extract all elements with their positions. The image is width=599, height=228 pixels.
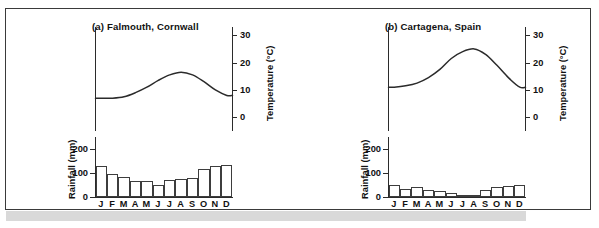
rainfall-bar: [434, 191, 445, 197]
rainfall-bar: [130, 181, 141, 197]
temperature-tick-label: 0: [240, 112, 245, 122]
rainfall-tick: [90, 149, 95, 150]
figure-frame: (a) Falmouth, Cornwall JFMAMJJASOND 0102…: [5, 8, 591, 210]
panel-a-month-axis: JFMAMJJASOND: [95, 199, 233, 213]
rainfall-bar: [457, 195, 468, 197]
month-label: A: [177, 199, 184, 209]
temperature-tick-label: 10: [533, 85, 543, 95]
rainfall-bar: [198, 169, 209, 197]
month-label: F: [109, 199, 115, 209]
month-label: J: [155, 199, 160, 209]
rainfall-bar: [210, 166, 221, 197]
panel-b-temperature-axis-title: Temperature (°C): [557, 46, 568, 121]
month-label: O: [493, 199, 500, 209]
temperature-tick: [525, 63, 530, 64]
month-label: A: [425, 199, 432, 209]
temperature-tick: [232, 117, 237, 118]
panel-b-rainfall-axis-title: Rainfall (mm): [359, 140, 370, 199]
rainfall-bar: [423, 190, 434, 197]
month-label: J: [460, 199, 465, 209]
panel-b-month-axis: JFMAMJJASOND: [388, 199, 526, 213]
temperature-tick-label: 30: [533, 30, 543, 40]
rainfall-bar: [411, 187, 422, 197]
temperature-tick-label: 10: [240, 85, 250, 95]
month-label: N: [212, 199, 219, 209]
rainfall-bar: [468, 195, 479, 197]
month-label: S: [482, 199, 488, 209]
month-label: A: [470, 199, 477, 209]
month-label: M: [143, 199, 151, 209]
panel-cartagena: (b) Cartagena, Spain JFMAMJJASOND 010203…: [299, 9, 592, 211]
month-label: J: [448, 199, 453, 209]
rainfall-tick: [90, 197, 95, 198]
rainfall-tick: [383, 173, 388, 174]
rainfall-tick: [90, 173, 95, 174]
rainfall-bar: [491, 187, 502, 197]
temperature-tick: [232, 63, 237, 64]
rainfall-bar: [153, 185, 164, 197]
month-label: F: [402, 199, 408, 209]
temperature-tick: [525, 117, 530, 118]
rainfall-bar: [164, 180, 175, 197]
rainfall-tick: [383, 149, 388, 150]
rainfall-bar: [107, 174, 118, 197]
rainfall-bar: [96, 166, 107, 197]
rainfall-bar: [187, 178, 198, 197]
temperature-tick-label: 20: [240, 58, 250, 68]
rainfall-bar: [514, 185, 525, 197]
temperature-tick-label: 30: [240, 30, 250, 40]
month-label: J: [391, 199, 396, 209]
rainfall-bar: [503, 186, 514, 197]
temperature-tick-label: 20: [533, 58, 543, 68]
panel-a-rainfall-bars: [96, 137, 233, 197]
month-label: M: [436, 199, 444, 209]
rainfall-bar: [400, 189, 411, 197]
rainfall-bar: [118, 177, 129, 197]
month-label: D: [516, 199, 523, 209]
month-label: A: [132, 199, 139, 209]
temperature-tick: [232, 35, 237, 36]
rainfall-bar: [221, 165, 232, 197]
month-label: M: [413, 199, 421, 209]
month-label: D: [223, 199, 230, 209]
rainfall-bar: [446, 193, 457, 197]
temperature-tick-label: 0: [533, 112, 538, 122]
temperature-tick: [525, 90, 530, 91]
temperature-tick: [525, 35, 530, 36]
rainfall-bar: [175, 179, 186, 197]
panel-a-rainfall-axis-title: Rainfall (mm): [66, 140, 77, 199]
panel-a-temperature-axis-title: Temperature (°C): [264, 46, 275, 121]
month-label: M: [120, 199, 128, 209]
month-label: S: [189, 199, 195, 209]
rainfall-tick: [383, 197, 388, 198]
month-label: O: [200, 199, 207, 209]
rainfall-bar: [480, 190, 491, 197]
panel-falmouth: (a) Falmouth, Cornwall JFMAMJJASOND 0102…: [6, 9, 299, 211]
rainfall-bar: [141, 181, 152, 197]
month-label: J: [98, 199, 103, 209]
rainfall-bar: [389, 185, 400, 197]
temperature-tick: [232, 90, 237, 91]
panel-b-rainfall-bars: [389, 137, 526, 197]
climate-graphs-figure: (a) Falmouth, Cornwall JFMAMJJASOND 0102…: [0, 0, 599, 228]
month-label: N: [505, 199, 512, 209]
month-label: J: [167, 199, 172, 209]
